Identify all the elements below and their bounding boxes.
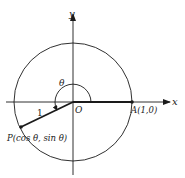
unit-circle-diagram: y x O θ 1 A(1,0) P(cos θ, sin θ) [0,0,185,178]
angle-theta-label: θ [59,78,65,88]
origin-label: O [75,105,83,115]
point-p-label: P(cos θ, sin θ) [6,133,67,143]
point-p-dot [19,125,23,129]
radius-label: 1 [37,108,43,118]
point-a-dot [130,100,134,104]
point-a-label: A(1,0) [130,105,157,115]
y-axis-label: y [68,8,75,19]
segment-op [21,102,73,127]
x-axis-label: x [172,96,178,107]
